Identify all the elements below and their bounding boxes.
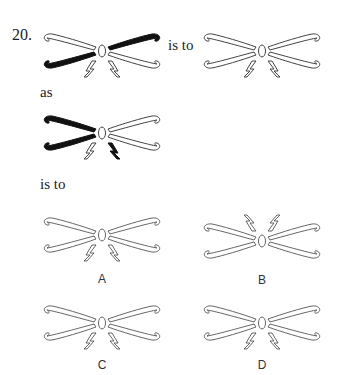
option-c-label[interactable]: C xyxy=(92,358,112,372)
connector-is-to-1: is to xyxy=(168,37,193,54)
question-number: 20. xyxy=(12,26,32,44)
stem-figure-3 xyxy=(40,108,164,168)
option-b-figure[interactable] xyxy=(200,210,324,270)
connector-as: as xyxy=(40,84,53,101)
option-a-label[interactable]: A xyxy=(92,272,112,286)
stem-figure-2 xyxy=(200,26,324,82)
option-c-figure[interactable] xyxy=(40,298,164,354)
option-b-label[interactable]: B xyxy=(252,273,272,287)
connector-is-to-2: is to xyxy=(40,176,65,193)
option-d-label[interactable]: D xyxy=(252,358,272,372)
stem-figure-1 xyxy=(40,26,164,82)
option-d-figure[interactable] xyxy=(200,298,324,354)
option-a-figure[interactable] xyxy=(40,210,164,266)
